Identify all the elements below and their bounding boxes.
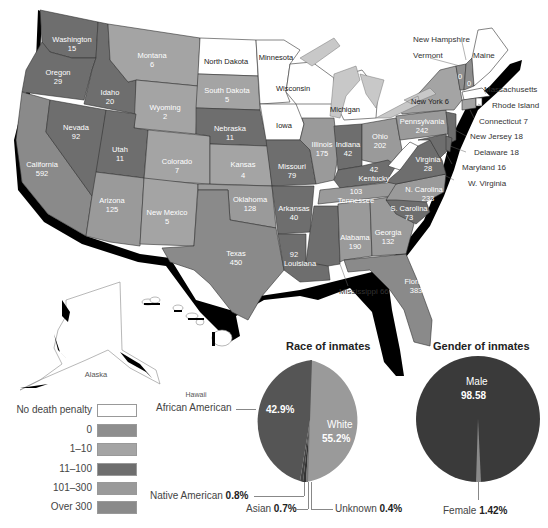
label-pennsylvania: Pennsylvania: [400, 117, 445, 126]
value-louisiana: 92: [290, 250, 298, 259]
label-new-mexico: New Mexico: [147, 208, 188, 217]
value-ohio: 202: [374, 141, 387, 150]
label-louisiana: Louisiana: [284, 259, 317, 268]
label-iowa: Iowa: [276, 121, 293, 130]
callout-line: [478, 482, 479, 500]
label-nebraska: Nebraska: [214, 124, 247, 133]
label-kansas: Kansas: [230, 160, 255, 169]
female-label: Female: [443, 505, 479, 516]
label-wyoming: Wyoming: [149, 103, 180, 112]
label-virginia: Virginia: [416, 155, 442, 164]
value-arizona: 125: [106, 205, 119, 214]
race-white-value: 55.2%: [322, 433, 350, 444]
value-california: 592: [36, 169, 49, 178]
state-alabama[interactable]: [338, 200, 372, 262]
value-georgia: 132: [382, 237, 395, 246]
value-indiana: 42: [344, 149, 352, 158]
native-american-value: 0.8%: [226, 490, 249, 501]
race-unknown-label: Unknown 0.4%: [335, 503, 402, 514]
callout-maine: Maine: [473, 51, 495, 60]
value-wyoming: 2: [163, 112, 167, 121]
label-california: California: [26, 160, 59, 169]
label-new-york: New York 6: [411, 97, 449, 106]
legend-label: 1–10: [70, 443, 92, 454]
value-oregon: 29: [54, 77, 62, 86]
legend-swatch: [97, 482, 137, 495]
legend-swatch: [97, 443, 137, 456]
legend-label: Over 300: [51, 501, 92, 512]
label-kentucky: Kentucky: [359, 174, 390, 183]
value-south-carolina: 73: [405, 213, 413, 222]
callout-connecticut: Connecticut 7: [479, 117, 528, 126]
label-washington: Washington: [52, 35, 91, 44]
state-connecticut[interactable]: [462, 98, 476, 110]
value-missouri: 79: [288, 171, 296, 180]
legend-label: 11–100: [59, 463, 92, 474]
value-vermont: 0: [458, 72, 462, 81]
callout-massachusetts: Massachusetts: [484, 85, 537, 94]
state-rhode-island[interactable]: [476, 98, 482, 106]
label-arkansas: Arkansas: [278, 204, 310, 213]
value-idaho: 20: [106, 97, 114, 106]
value-montana: 6: [150, 60, 154, 69]
gender-pie-chart: [414, 355, 544, 485]
value-illinois: 175: [316, 149, 329, 158]
label-wisconsin: Wisconsin: [276, 84, 310, 93]
race-white-label: White: [327, 419, 353, 430]
gender-male-value: 98.58: [461, 390, 486, 401]
legend-swatch: [97, 404, 137, 417]
callout-line: [311, 509, 333, 510]
gender-male-label: Male: [466, 376, 488, 387]
label-oregon: Oregon: [45, 68, 70, 77]
value-nevada: 92: [72, 132, 80, 141]
legend-item-101-300: 101–300: [0, 482, 140, 496]
label-minnesota: Minnesota: [259, 53, 294, 62]
legend-label: 0: [86, 424, 92, 435]
value-nebraska: 11: [226, 133, 234, 142]
label-georgia: Georgia: [375, 228, 403, 237]
race-pie-title: Race of inmates: [286, 340, 370, 352]
value-washington: 15: [68, 44, 76, 53]
label-north-carolina: N. Carolina: [405, 185, 443, 194]
value-colorado: 7: [175, 166, 179, 175]
legend-label: 101–300: [53, 482, 92, 493]
callout-line: [311, 482, 312, 509]
legend-item-0: 0: [0, 424, 140, 438]
callout-maryland: Maryland 16: [462, 163, 507, 172]
value-pennsylvania: 242: [416, 126, 429, 135]
asian-label: Asian: [246, 503, 274, 514]
label-illinois: Illinois: [312, 140, 333, 149]
label-alabama: Alabama: [340, 233, 370, 242]
legend: No death penalty 0 1–10 11–100 101–300 O…: [0, 398, 140, 528]
asian-value: 0.7%: [274, 503, 297, 514]
legend-swatch: [97, 463, 137, 476]
callout-new-hampshire: New Hampshire: [413, 35, 470, 44]
callout-line: [254, 496, 304, 497]
value-south-dakota: 5: [225, 95, 229, 104]
label-ohio: Ohio: [372, 132, 388, 141]
label-florida: Florida: [405, 277, 429, 286]
female-value: 1.42%: [479, 505, 507, 516]
legend-item-1-10: 1–10: [0, 443, 140, 457]
gender-female-label: Female 1.42%: [443, 505, 507, 516]
value-north-carolina: 233: [422, 194, 435, 203]
legend-swatch: [97, 501, 137, 514]
value-texas: 450: [230, 258, 243, 267]
value-arkansas: 40: [290, 213, 298, 222]
legend-item-no-death-penalty: No death penalty: [0, 404, 140, 418]
native-american-label: Native American: [150, 490, 226, 501]
callout-line: [236, 409, 256, 410]
label-michigan: Michigan: [330, 105, 360, 114]
value-new-hampshire: 0: [467, 79, 471, 88]
callout-line: [296, 509, 308, 510]
label-nevada: Nevada: [63, 123, 90, 132]
callout-delaware: Delaware 18: [474, 148, 519, 157]
label-arizona: Arizona: [99, 196, 125, 205]
label-hawaii: Hawaii: [185, 391, 206, 398]
callout-vermont: Vermont: [413, 51, 444, 60]
state-wisconsin[interactable]: [286, 62, 336, 104]
unknown-label: Unknown: [335, 503, 379, 514]
legend-item-over-300: Over 300: [0, 501, 140, 515]
label-missouri: Missouri: [278, 162, 306, 171]
callout-line: [308, 482, 309, 509]
